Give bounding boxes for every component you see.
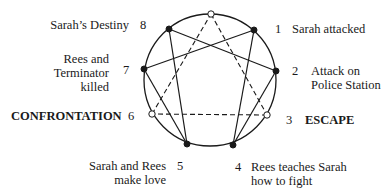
nodes [141, 11, 279, 148]
label-5-line-2: make love [70, 173, 166, 187]
label-point-1: Sarah attacked [292, 22, 365, 36]
label-2-line-1: Attack on [311, 64, 381, 78]
label-point-4: Rees teaches Sarah how to fight [251, 160, 347, 188]
number-5: 5 [177, 159, 183, 173]
label-8-line-1: Sarah’s Destiny [50, 18, 129, 32]
label-6-line-1: CONFRONTATION [11, 109, 122, 123]
node-4-filled [230, 142, 236, 148]
label-7-line-2: Terminator [30, 66, 109, 80]
number-7: 7 [123, 63, 129, 77]
number-8: 8 [140, 18, 146, 32]
label-point-7: Rees and Terminator killed [30, 52, 109, 94]
number-2: 2 [292, 64, 298, 78]
number-6: 6 [128, 109, 134, 123]
node-3-open [264, 112, 270, 118]
node-7-filled [141, 66, 147, 72]
label-7-line-3: killed [30, 80, 109, 94]
number-3: 3 [286, 113, 292, 127]
number-4: 4 [235, 160, 241, 174]
label-5-line-1: Sarah and Rees [70, 159, 166, 173]
label-3-line-1: ESCAPE [305, 113, 354, 127]
label-1-line-1: Sarah attacked [292, 22, 365, 36]
label-point-2: Attack on Police Station [311, 64, 381, 92]
node-6-open [149, 111, 155, 117]
label-7-line-1: Rees and [30, 52, 109, 66]
node-2-filled [273, 68, 279, 74]
label-point-6: CONFRONTATION [11, 109, 122, 123]
node-1-filled [251, 27, 257, 33]
label-2-line-2: Police Station [311, 78, 381, 92]
label-4-line-1: Rees teaches Sarah [251, 160, 347, 174]
label-point-5: Sarah and Rees make love [70, 159, 166, 187]
label-point-3: ESCAPE [305, 113, 354, 127]
edge-8-5 [169, 29, 187, 144]
node-9-open [208, 11, 214, 17]
node-8-filled [166, 26, 172, 32]
label-point-8: Sarah’s Destiny [40, 18, 129, 32]
number-1: 1 [275, 22, 281, 36]
enneagram-circle [144, 14, 276, 146]
label-4-line-2: how to fight [251, 174, 347, 188]
node-5-filled [184, 141, 190, 147]
